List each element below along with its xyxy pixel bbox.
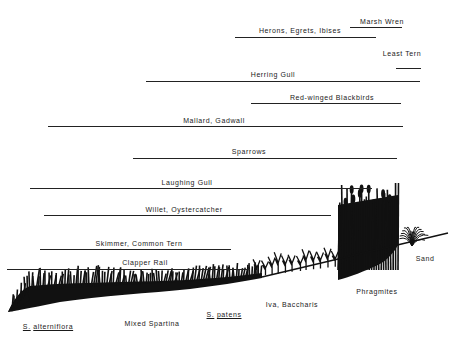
bird-range-label: Willet, Oystercatcher: [145, 206, 222, 213]
bird-range-line: [396, 68, 421, 69]
bird-range-label: Laughing Gull: [162, 179, 213, 186]
bird-range-line: [48, 126, 403, 127]
marsh-bird-habitat-diagram: Marsh WrenHerons, Egrets, IbisesLeast Te…: [0, 0, 469, 340]
bird-range-label: Herons, Egrets, Ibises: [259, 27, 341, 34]
zone-label: Phragmites: [356, 288, 397, 295]
bird-range-label: Least Tern: [383, 50, 422, 57]
zone-label: Iva, Baccharis: [266, 301, 318, 308]
bird-range-label: Sparrows: [232, 148, 266, 155]
bird-range-line: [44, 215, 331, 216]
bird-range-line: [133, 158, 397, 159]
bird-range-label: Mallard, Gadwall: [183, 117, 245, 124]
bird-range-line: [40, 249, 231, 250]
bird-range-label: Herring Gull: [251, 71, 296, 78]
bird-range-line: [30, 188, 372, 189]
bird-range-label: Red-winged Blackbirds: [290, 94, 374, 101]
bird-range-label: Clapper Rail: [122, 259, 168, 266]
bird-range-line: [350, 27, 402, 28]
zone-label: Sand: [416, 255, 435, 262]
phragmites-stand: [338, 183, 398, 280]
zone-label: S. patens: [207, 311, 242, 318]
zone-label: Mixed Spartina: [124, 320, 179, 327]
bird-range-label: Skimmer, Common Tern: [96, 240, 183, 247]
bird-range-line: [235, 37, 376, 38]
zone-label: S. alterniflora: [23, 323, 73, 330]
bird-range-label: Marsh Wren: [360, 18, 404, 25]
bird-range-line: [251, 103, 401, 104]
bird-range-line: [146, 81, 420, 82]
bird-range-line: [7, 269, 250, 270]
